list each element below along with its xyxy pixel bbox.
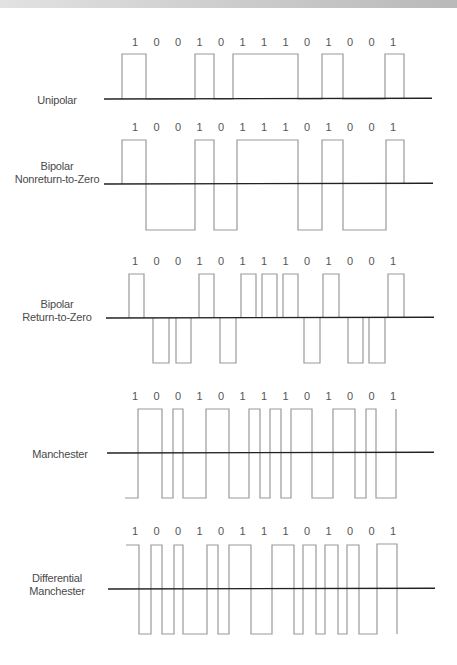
bit-label: 0 — [153, 390, 159, 402]
bit-label: 1 — [390, 121, 396, 133]
bit-label: 1 — [390, 36, 396, 48]
bit-label: 1 — [132, 36, 138, 48]
bit-label: 0 — [175, 36, 181, 48]
bit-label: 0 — [218, 390, 224, 402]
bit-label: 1 — [239, 121, 245, 133]
bit-label: 1 — [282, 255, 288, 267]
zero-baseline — [107, 452, 434, 453]
negative-pulse — [176, 318, 191, 363]
bit-label: 0 — [153, 36, 159, 48]
bit-label: 1 — [325, 36, 331, 48]
waveform-manchester: 1001011101001 — [107, 390, 434, 498]
bit-label: 1 — [261, 255, 267, 267]
positive-pulse — [323, 274, 339, 318]
positive-pulse — [283, 274, 298, 318]
bit-label: 0 — [175, 525, 181, 537]
bit-label: 0 — [368, 390, 374, 402]
bit-label: 1 — [261, 390, 267, 402]
bit-label: 1 — [390, 390, 396, 402]
bit-label: 0 — [304, 255, 310, 267]
bit-label: 1 — [196, 121, 202, 133]
bit-label: 0 — [347, 121, 353, 133]
bit-label: 1 — [239, 525, 245, 537]
bit-label: 0 — [368, 36, 374, 48]
bit-label: 0 — [175, 390, 181, 402]
zero-baseline — [104, 183, 433, 184]
bit-label: 1 — [196, 390, 202, 402]
bit-label: 1 — [282, 525, 288, 537]
zero-baseline — [104, 98, 432, 99]
bit-label: 0 — [175, 121, 181, 133]
bit-label: 0 — [368, 121, 374, 133]
bit-label: 1 — [132, 121, 138, 133]
bit-label: 0 — [218, 255, 224, 267]
bit-label: 1 — [132, 525, 138, 537]
zero-baseline — [108, 588, 435, 589]
bit-label: 0 — [368, 255, 374, 267]
positive-pulse — [388, 274, 404, 318]
positive-pulse — [262, 274, 277, 318]
bit-label: 1 — [282, 36, 288, 48]
signal-trace — [122, 140, 404, 230]
bit-label: 0 — [175, 255, 181, 267]
bit-label: 1 — [196, 525, 202, 537]
bit-label: 1 — [196, 36, 202, 48]
bit-label: 1 — [239, 36, 245, 48]
bit-label: 1 — [325, 255, 331, 267]
bit-label: 0 — [347, 36, 353, 48]
bit-label: 1 — [239, 255, 245, 267]
negative-pulse — [369, 318, 385, 363]
bit-label: 0 — [347, 390, 353, 402]
signal-trace — [122, 54, 404, 99]
negative-pulse — [153, 318, 169, 363]
waveform-unipolar: 1001011101001 — [104, 36, 432, 99]
bit-label: 0 — [218, 525, 224, 537]
bit-label: 1 — [282, 390, 288, 402]
bit-label: 0 — [368, 525, 374, 537]
bit-label: 0 — [347, 525, 353, 537]
positive-pulse — [241, 274, 256, 318]
bit-label: 0 — [153, 121, 159, 133]
positive-pulse — [129, 274, 144, 318]
bit-label: 1 — [390, 525, 396, 537]
zero-baseline — [106, 317, 434, 318]
bit-label: 0 — [304, 36, 310, 48]
negative-pulse — [220, 318, 236, 363]
bit-label: 0 — [304, 121, 310, 133]
bit-label: 1 — [261, 36, 267, 48]
negative-pulse — [348, 318, 363, 363]
bit-label: 1 — [325, 121, 331, 133]
bit-label: 1 — [325, 390, 331, 402]
bit-label: 0 — [347, 255, 353, 267]
bit-label: 0 — [218, 36, 224, 48]
bit-label: 0 — [153, 255, 159, 267]
bit-label: 1 — [132, 390, 138, 402]
bit-label: 1 — [239, 390, 245, 402]
waveform-differential-manchester: 1001011101001 — [108, 525, 435, 634]
bit-label: 1 — [132, 255, 138, 267]
bit-label: 1 — [390, 255, 396, 267]
negative-pulse — [304, 318, 320, 363]
waveform-bipolar-nrz: 1001011101001 — [104, 121, 433, 230]
line-coding-diagram: 1001011101001100101110100110010111010011… — [0, 0, 457, 665]
bit-label: 1 — [196, 255, 202, 267]
bit-label: 1 — [261, 525, 267, 537]
bit-label: 0 — [304, 525, 310, 537]
bit-label: 0 — [218, 121, 224, 133]
bit-label: 0 — [153, 525, 159, 537]
bit-label: 0 — [304, 390, 310, 402]
positive-pulse — [199, 274, 214, 318]
bit-label: 1 — [282, 121, 288, 133]
waveform-bipolar-rz: 1001011101001 — [106, 255, 434, 363]
bit-label: 1 — [325, 525, 331, 537]
bit-label: 1 — [261, 121, 267, 133]
